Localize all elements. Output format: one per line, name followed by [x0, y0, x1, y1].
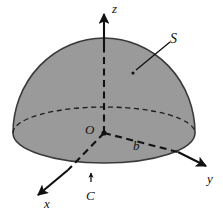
surface-leader-dot [131, 71, 134, 74]
axis-x-solid-segment [38, 170, 68, 195]
axis-y-solid-segment [178, 152, 206, 166]
origin-label: O [85, 123, 94, 136]
axis-y-label: y [207, 172, 213, 185]
surface-label: S [170, 32, 177, 46]
axis-z-label: z [112, 2, 117, 15]
hemisphere-surface-fill [13, 38, 195, 163]
hemisphere-body [13, 38, 195, 163]
curve-label: C [86, 189, 95, 202]
hemisphere-figure: z S O b y x C [0, 0, 223, 214]
radius-label: b [133, 139, 140, 152]
figure-canvas [0, 0, 223, 214]
origin-point-marker [101, 130, 106, 135]
axis-x-label: x [44, 197, 50, 210]
